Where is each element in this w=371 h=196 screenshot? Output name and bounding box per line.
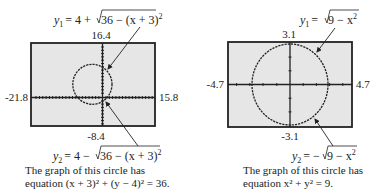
left-xmin-label: -21.8 xyxy=(5,91,28,103)
svg-text:y1= 4 + 36 − (x + 3)2: y1= 4 + 36 − (x + 3)2 xyxy=(53,12,162,29)
left-caption: The graph of this circle has equation (x… xyxy=(25,164,169,190)
left-graph-screen xyxy=(31,43,155,126)
left-caption-line1: The graph of this circle has xyxy=(25,164,169,177)
left-xmax-label: 15.8 xyxy=(159,91,179,103)
right-graph-screen xyxy=(228,42,352,127)
right-xmin-label: -4.7 xyxy=(207,78,225,90)
right-xmax-label: 4.7 xyxy=(356,78,370,90)
left-top-equation: y1= 4 + 36 − (x + 3)2 xyxy=(53,10,162,29)
left-caption-line2: equation (x + 3)² + (y − 4)² = 36. xyxy=(25,177,169,190)
right-ymax-label: 3.1 xyxy=(282,28,296,40)
left-ymin-label: -8.4 xyxy=(87,130,105,142)
svg-text:y2= −9 − x2: y2= −9 − x2 xyxy=(291,148,356,165)
right-caption: The graph of this circle has equation x²… xyxy=(243,164,363,190)
svg-text:y2= 4 − 36 − (x + 3)2: y2= 4 − 36 − (x + 3)2 xyxy=(52,148,161,165)
left-ymax-label: 16.4 xyxy=(91,29,111,41)
right-ymin-label: -3.1 xyxy=(281,130,298,142)
right-bottom-equation: y2= −9 − x2 xyxy=(291,146,357,165)
right-caption-line1: The graph of this circle has xyxy=(243,164,363,177)
right-top-equation: y1= 9 − x2 xyxy=(299,10,359,29)
right-caption-line2: equation x² + y² = 9. xyxy=(243,177,363,190)
left-bottom-equation: y2= 4 − 36 − (x + 3)2 xyxy=(52,146,161,165)
